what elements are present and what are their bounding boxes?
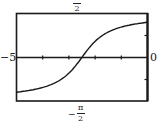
y-label-bottom-num: π [78, 104, 83, 112]
y-label-bottom: − π 2 [68, 104, 85, 123]
x-tick-label-left: −5 [0, 52, 16, 63]
y-label-top: π 2 [73, 0, 81, 13]
x-tick-label-right: 0 [150, 52, 157, 63]
y-label-top-den: 2 [74, 5, 79, 13]
minus-sign: − [68, 110, 76, 118]
fraction: π 2 [77, 104, 85, 123]
y-label-bottom-den: 2 [78, 115, 83, 123]
